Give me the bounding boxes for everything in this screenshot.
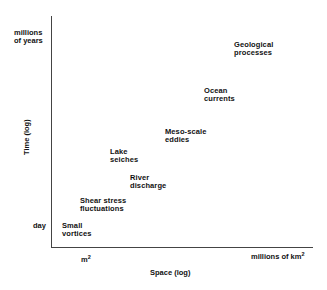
x-tick-high-base: millions of km (251, 252, 301, 261)
y-axis-title: Time (log) (22, 119, 31, 155)
x-axis-title: Space (log) (150, 268, 190, 277)
x-tick-low-base: m (81, 255, 88, 264)
label-line: discharge (130, 182, 166, 190)
x-tick-high: millions of km2 (251, 253, 305, 261)
x-tick-high-sup: 2 (301, 251, 304, 257)
label-line: currents (204, 95, 235, 103)
point-label-lake-seiches: Lake seiches (110, 148, 138, 164)
point-label-ocean-currents: Ocean currents (204, 87, 235, 103)
point-label-meso-scale-eddies: Meso-scale eddies (165, 128, 206, 144)
y-axis-line (51, 16, 52, 248)
y-tick-high-line2: of years (14, 37, 43, 45)
x-tick-low-sup: 2 (88, 254, 91, 260)
label-line: seiches (110, 156, 138, 164)
label-line: processes (234, 49, 273, 57)
label-line: vortices (62, 230, 92, 238)
label-line: eddies (165, 136, 206, 144)
x-tick-low: m2 (81, 256, 91, 264)
y-tick-low: day (33, 222, 46, 230)
point-label-small-vortices: Small vortices (62, 222, 92, 238)
point-label-shear-stress-fluctuations: Shear stress fluctuations (80, 197, 126, 213)
point-label-geological-processes: Geological processes (234, 41, 273, 57)
point-label-river-discharge: River discharge (130, 174, 166, 190)
y-tick-high: millions of years (14, 29, 43, 45)
x-axis-line (51, 247, 313, 248)
label-line: fluctuations (80, 205, 126, 213)
